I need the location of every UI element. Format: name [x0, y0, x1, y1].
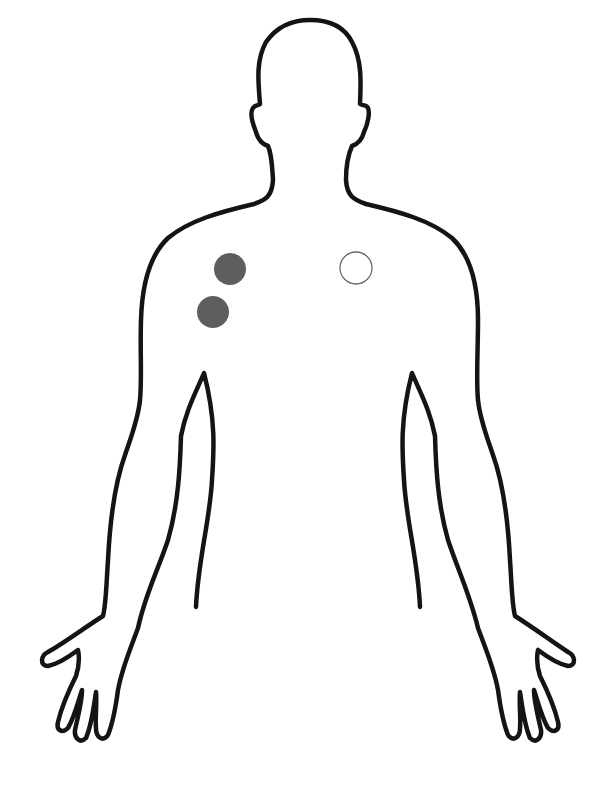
pain-marker-filled-upper — [214, 253, 246, 285]
body-outline — [42, 20, 574, 740]
body-diagram — [0, 0, 610, 795]
pain-marker-filled-lower — [197, 296, 229, 328]
marker-open-circle — [340, 252, 372, 284]
